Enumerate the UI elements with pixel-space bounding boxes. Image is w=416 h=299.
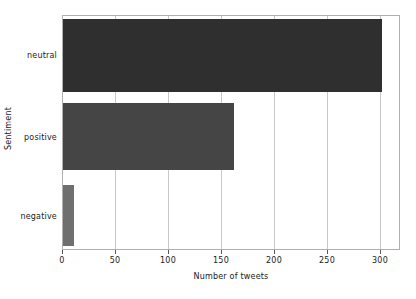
x-tick-mark-0 — [62, 250, 63, 254]
x-tick-mark-100 — [168, 250, 169, 254]
x-tick-mark-250 — [327, 250, 328, 254]
x-tick-label-50: 50 — [95, 256, 135, 265]
bar-chart-figure: Sentiment neutral positive negative 0 50… — [0, 0, 416, 299]
plot-area — [62, 15, 400, 250]
x-tick-mark-50 — [115, 250, 116, 254]
bar-positive[interactable] — [63, 103, 234, 170]
y-axis-tick-labels: neutral positive negative — [0, 0, 57, 299]
x-axis-title: Number of tweets — [62, 272, 400, 281]
x-tick-label-250: 250 — [307, 256, 347, 265]
y-tick-label-positive: positive — [1, 133, 57, 142]
x-tick-label-100: 100 — [148, 256, 188, 265]
y-tick-label-neutral: neutral — [1, 51, 57, 60]
x-tick-label-200: 200 — [254, 256, 294, 265]
x-tick-mark-300 — [380, 250, 381, 254]
x-tick-mark-200 — [274, 250, 275, 254]
x-tick-label-300: 300 — [360, 256, 400, 265]
bar-neutral[interactable] — [63, 19, 382, 92]
bar-negative[interactable] — [63, 185, 74, 246]
x-tick-label-0: 0 — [42, 256, 82, 265]
y-tick-label-negative: negative — [1, 212, 57, 221]
x-tick-mark-150 — [221, 250, 222, 254]
x-tick-label-150: 150 — [201, 256, 241, 265]
